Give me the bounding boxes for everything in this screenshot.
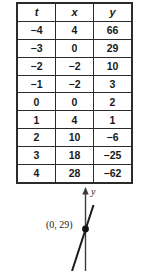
cell-x: 0 bbox=[56, 93, 94, 111]
cell-y: 2 bbox=[94, 93, 132, 111]
cell-y: 10 bbox=[94, 57, 132, 75]
y-axis-label: y bbox=[90, 186, 96, 197]
cell-x: 0 bbox=[56, 39, 94, 57]
table-row: −2 −2 10 bbox=[18, 57, 132, 75]
cell-y: −6 bbox=[94, 129, 132, 147]
y-axis-arrow-icon bbox=[82, 187, 88, 195]
point-coordinate-label: (0, 29) bbox=[46, 219, 73, 231]
table-header-row: t x y bbox=[18, 4, 132, 22]
cell-t: −1 bbox=[18, 75, 56, 93]
cell-x: −2 bbox=[56, 57, 94, 75]
cell-t: 2 bbox=[18, 129, 56, 147]
cell-t: −4 bbox=[18, 21, 56, 39]
cell-x: 4 bbox=[56, 111, 94, 129]
cell-y: −25 bbox=[94, 147, 132, 165]
cell-x: 4 bbox=[56, 21, 94, 39]
cell-y: 1 bbox=[94, 111, 132, 129]
column-header-y: y bbox=[94, 4, 132, 22]
table-row: 1 4 1 bbox=[18, 111, 132, 129]
table-row: 0 0 2 bbox=[18, 93, 132, 111]
column-header-t: t bbox=[18, 4, 56, 22]
graph-container: y (0, 29) bbox=[0, 180, 148, 271]
cell-y: 66 bbox=[94, 21, 132, 39]
cell-y: 29 bbox=[94, 39, 132, 57]
column-header-x: x bbox=[56, 4, 94, 22]
plotted-line bbox=[72, 205, 94, 271]
cell-x: 10 bbox=[56, 129, 94, 147]
table-row: −3 0 29 bbox=[18, 39, 132, 57]
table-row: −1 −2 3 bbox=[18, 75, 132, 93]
cell-x: −2 bbox=[56, 75, 94, 93]
values-table: t x y −4 4 66 −3 0 29 −2 −2 10 −1 bbox=[17, 3, 132, 183]
table-row: −4 4 66 bbox=[18, 21, 132, 39]
cell-t: −3 bbox=[18, 39, 56, 57]
table-row: 2 10 −6 bbox=[18, 129, 132, 147]
cell-x: 18 bbox=[56, 147, 94, 165]
cell-t: −2 bbox=[18, 57, 56, 75]
table-row: 3 18 −25 bbox=[18, 147, 132, 165]
cell-y: 3 bbox=[94, 75, 132, 93]
cell-t: 3 bbox=[18, 147, 56, 165]
cell-t: 0 bbox=[18, 93, 56, 111]
coordinate-plane-graph: y (0, 29) bbox=[0, 180, 148, 271]
values-table-container: t x y −4 4 66 −3 0 29 −2 −2 10 −1 bbox=[17, 3, 131, 172]
cell-t: 1 bbox=[18, 111, 56, 129]
y-intercept-point-marker bbox=[82, 226, 89, 233]
